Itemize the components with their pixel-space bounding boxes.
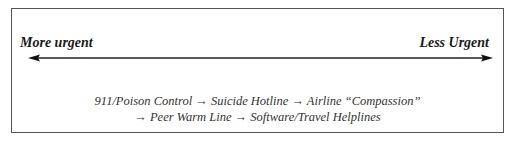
less-urgent-label: Less Urgent [419, 35, 489, 51]
sequence-line-2: → Peer Warm Line → Software/Travel Helpl… [12, 109, 503, 125]
more-urgent-label: More urgent [20, 35, 93, 51]
diagram-frame: More urgent Less Urgent 911/Poison Contr… [11, 8, 504, 133]
urgency-sequence: 911/Poison Control → Suicide Hotline → A… [12, 93, 503, 125]
sequence-line-1: 911/Poison Control → Suicide Hotline → A… [12, 93, 503, 109]
bidirectional-arrow-icon [28, 52, 493, 64]
